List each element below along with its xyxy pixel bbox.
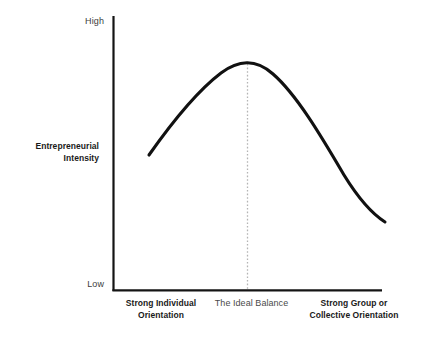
chart-plot-area — [0, 0, 423, 341]
x-axis-label-strong-individual-line1: Strong Individual — [108, 298, 214, 310]
x-axis-label-strong-individual: Strong Individual Orientation — [108, 298, 214, 321]
chart-figure: High Low Entrepreneurial Intensity Stron… — [0, 0, 423, 341]
y-axis-title: Entrepreneurial Intensity — [0, 141, 99, 164]
x-axis-label-strong-individual-line2: Orientation — [108, 310, 214, 322]
y-axis-title-line2: Intensity — [0, 153, 99, 165]
y-axis-low-label: Low — [0, 279, 104, 289]
x-axis-label-strong-group: Strong Group or Collective Orientation — [292, 298, 416, 321]
x-axis-label-strong-group-line1: Strong Group or — [292, 298, 416, 310]
y-axis-high-label: High — [0, 16, 104, 26]
x-axis-label-strong-group-line2: Collective Orientation — [292, 310, 416, 322]
x-axis-label-ideal-balance: The Ideal Balance — [204, 298, 299, 310]
y-axis-title-line1: Entrepreneurial — [0, 141, 99, 153]
entrepreneurial-intensity-curve — [149, 63, 385, 222]
